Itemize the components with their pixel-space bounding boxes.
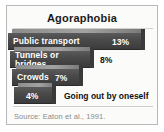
bar-side-face	[52, 83, 56, 104]
chart-frame: Agoraphobia Public transport 13% Tunnels…	[6, 5, 158, 125]
bar-side-face	[90, 47, 94, 68]
source-divider	[13, 106, 153, 107]
bar-chart-plot-area: Public transport 13% Tunnels or bridges …	[7, 29, 158, 103]
bar-value-label: 7%	[55, 69, 67, 86]
bar-side-face	[141, 29, 145, 50]
bar-category-label: Going out by oneself	[64, 87, 149, 104]
chart-title: Agoraphobia	[7, 12, 157, 24]
bar-value-label: 13%	[112, 33, 129, 50]
chart-source-note: Source: Eaton et al., 1991.	[14, 112, 106, 121]
bar-row: 4% Going out by oneself	[14, 87, 56, 104]
bar-side-face	[79, 65, 83, 86]
bar-value-label: 4%	[26, 87, 38, 104]
bar-value-label: 8%	[100, 51, 112, 68]
